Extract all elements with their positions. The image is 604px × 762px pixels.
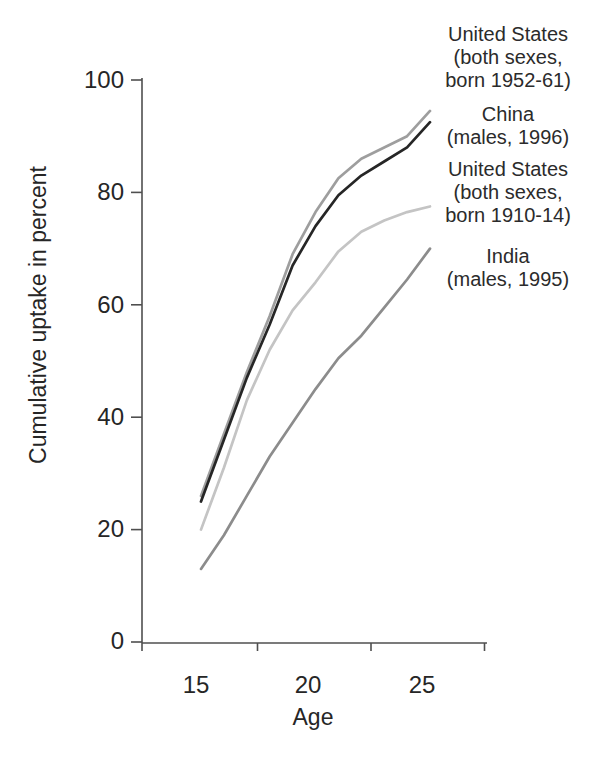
- legend-text: (males, 1995): [418, 268, 598, 291]
- y-tick-label-100: 100: [40, 65, 124, 95]
- x-tick-label-15: 15: [166, 670, 226, 700]
- legend-text: (both sexes,: [418, 46, 598, 69]
- y-tick-label-0: 0: [40, 626, 124, 656]
- line-china-males-1996: [201, 122, 430, 501]
- x-axis-title: Age: [273, 702, 353, 732]
- legend-item-india: India (males, 1995): [418, 245, 598, 291]
- legend-text: China: [418, 103, 598, 126]
- legend-text: born 1910-14): [418, 204, 598, 227]
- legend-text: (both sexes,: [418, 181, 598, 204]
- legend-item-china: China (males, 1996): [418, 103, 598, 149]
- legend-item-us-1952-61: United States (both sexes, born 1952-61): [418, 23, 598, 92]
- legend-text: (males, 1996): [418, 126, 598, 149]
- legend-text: India: [418, 245, 598, 268]
- uptake-figure: 100 80 60 40 20 0 15 20 25 Cumulative up…: [0, 0, 604, 762]
- y-axis-title: Cumulative uptake in percent: [23, 100, 53, 530]
- legend-item-us-1910-14: United States (both sexes, born 1910-14): [418, 158, 598, 227]
- legend-text: born 1952-61): [418, 69, 598, 92]
- legend-text: United States: [418, 23, 598, 46]
- line-united-states-both-sexes-born-1910-14: [201, 206, 430, 529]
- x-tick-label-25: 25: [392, 670, 452, 700]
- legend-text: United States: [418, 158, 598, 181]
- x-tick-label-20: 20: [278, 670, 338, 700]
